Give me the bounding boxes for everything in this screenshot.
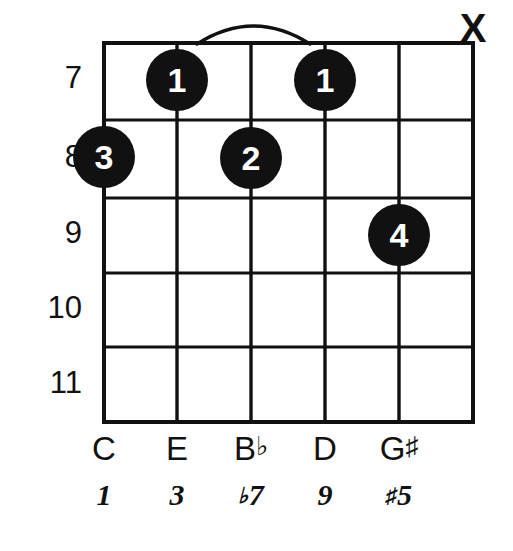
flat-icon: ♭ <box>238 484 248 508</box>
note-letter: E <box>166 430 188 467</box>
fret-number-11: 11 <box>12 367 82 398</box>
sharp-icon: ♯ <box>386 484 397 508</box>
interval-degree: 7 <box>249 478 264 511</box>
flat-icon: ♭ <box>256 432 268 460</box>
fret-number-8: 8 <box>12 141 82 172</box>
fret-number-7: 7 <box>12 62 82 93</box>
interval-degree: 9 <box>318 478 333 511</box>
interval-degree: 5 <box>397 478 412 511</box>
finger-dot-4[interactable] <box>368 204 430 266</box>
interval-degree: 3 <box>170 478 185 511</box>
note-letter: C <box>92 430 116 467</box>
interval-string-5: ♯5 <box>354 480 444 510</box>
note-letter: G <box>380 430 406 467</box>
note-letter: B <box>234 430 256 467</box>
finger-dot-3[interactable] <box>73 126 135 188</box>
finger-dot-1b[interactable] <box>294 49 356 111</box>
interval-degree: 1 <box>97 478 112 511</box>
sharp-icon: ♯ <box>405 432 418 460</box>
fret-number-9: 9 <box>12 217 82 248</box>
note-letter: D <box>313 430 337 467</box>
note-name-string-5: G♯ <box>354 432 444 465</box>
finger-dot-1a[interactable] <box>146 49 208 111</box>
fret-number-10: 10 <box>12 292 82 323</box>
finger-dot-2[interactable] <box>220 127 282 189</box>
mute-marker-string-6: X <box>450 8 496 48</box>
chord-diagram: 7891011 X 11324 CEB♭DG♯ 13♭79♯5 <box>0 0 513 551</box>
